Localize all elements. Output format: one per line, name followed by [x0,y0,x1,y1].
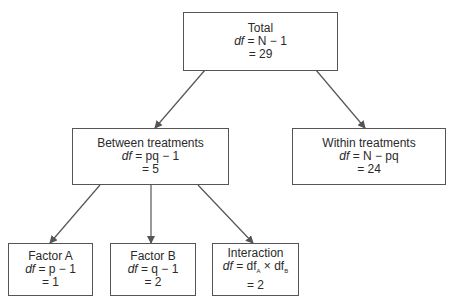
node-between-treatments: Between treatments df = pq − 1 = 5 [72,128,229,185]
node-value: = 5 [142,163,159,176]
arrow-total-to-within [316,70,365,128]
node-interaction: Interaction df = dfA × dfB = 2 [212,243,299,296]
node-total: Total df = N − 1 = 29 [183,12,338,71]
node-value: = 29 [249,48,273,61]
node-value: = 24 [357,163,381,176]
node-value: = 2 [247,279,264,292]
node-factor-a: Factor A df = p − 1 = 1 [8,243,93,296]
node-value: = 2 [144,276,161,289]
node-within-treatments: Within treatments df = N − pq = 24 [292,128,446,185]
node-value: = 1 [42,276,59,289]
node-factor-b: Factor B df = q − 1 = 2 [110,243,196,296]
arrow-between-to-interaction [198,185,253,243]
arrow-total-to-between [155,70,205,128]
arrow-between-to-factor-a [50,185,100,243]
node-formula: df = dfA × dfB [223,260,288,278]
